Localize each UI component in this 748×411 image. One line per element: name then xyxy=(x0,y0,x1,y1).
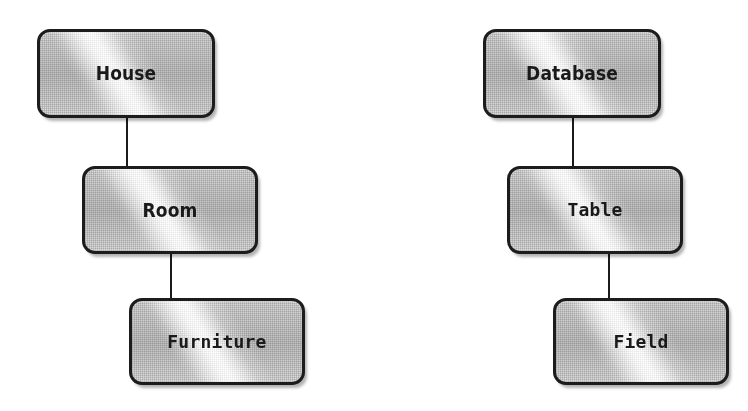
connector-room-furniture xyxy=(170,253,172,299)
node-label-field: Field xyxy=(613,333,668,351)
node-room[interactable]: Room xyxy=(82,166,258,254)
node-database[interactable]: Database xyxy=(483,29,661,118)
node-label-furniture: Furniture xyxy=(167,333,266,351)
connector-table-field xyxy=(608,253,610,299)
node-field[interactable]: Field xyxy=(553,298,729,385)
node-table[interactable]: Table xyxy=(507,166,683,254)
node-furniture[interactable]: Furniture xyxy=(129,298,305,385)
node-label-room: Room xyxy=(143,201,198,220)
node-house[interactable]: House xyxy=(37,29,215,118)
node-label-table: Table xyxy=(567,201,622,219)
node-label-house: House xyxy=(96,64,157,83)
diagram-canvas: House Room Furniture Database Table Fiel… xyxy=(0,0,748,411)
node-label-database: Database xyxy=(526,64,618,83)
connector-database-table xyxy=(572,117,574,167)
connector-house-room xyxy=(126,117,128,167)
